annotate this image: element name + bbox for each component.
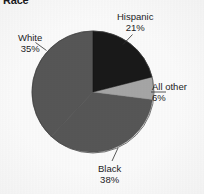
slice-label-hispanic-name: Hispanic	[117, 11, 153, 22]
slice-label-all-other: All other 6%	[152, 82, 187, 103]
slice-label-black: Black 38%	[98, 164, 121, 185]
slice-label-white-name: White	[18, 32, 42, 43]
slice-label-all-other-name: All other	[152, 81, 187, 92]
slice-label-black-value: 38%	[98, 175, 121, 186]
pie-chart-figure: Race Hispanic 21% White 35% All other 6%…	[0, 0, 204, 194]
slice-label-hispanic: Hispanic 21%	[117, 12, 153, 33]
slice-label-hispanic-value: 21%	[117, 23, 153, 34]
slice-label-black-name: Black	[98, 163, 121, 174]
slice-label-white: White 35%	[18, 33, 42, 54]
slice-label-white-value: 35%	[18, 44, 42, 55]
slice-label-all-other-value: 6%	[152, 93, 187, 104]
